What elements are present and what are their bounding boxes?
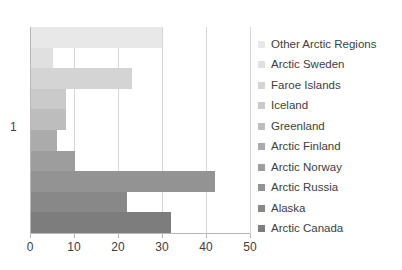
bar-row: [31, 109, 250, 130]
legend-swatch-icon: [258, 123, 265, 130]
legend-item[interactable]: Iceland: [258, 96, 398, 117]
x-axis-tick-label: 40: [199, 240, 212, 254]
legend-swatch-icon: [258, 61, 265, 68]
bar-faroe-islands: [31, 68, 132, 89]
bar-chart: 1 01020304050 Other Arctic RegionsArctic…: [0, 0, 402, 270]
legend-item[interactable]: Arctic Finland: [258, 137, 398, 158]
legend-item-label: Alaska: [271, 203, 306, 215]
bar-iceland: [31, 89, 66, 110]
x-axis-tick-label: 30: [155, 240, 168, 254]
legend-item-label: Arctic Canada: [271, 223, 343, 235]
bar-arctic-norway: [31, 151, 75, 172]
bar-arctic-canada: [31, 212, 171, 233]
legend-item-label: Faroe Islands: [271, 80, 341, 92]
plot-area: [30, 27, 250, 234]
y-axis-line: [30, 27, 31, 234]
legend-swatch-icon: [258, 41, 265, 48]
legend-swatch-icon: [258, 143, 265, 150]
legend-item[interactable]: Arctic Sweden: [258, 55, 398, 76]
legend-swatch-icon: [258, 205, 265, 212]
legend-item[interactable]: Alaska: [258, 198, 398, 219]
legend-item-label: Arctic Norway: [271, 162, 342, 174]
legend-item-label: Other Arctic Regions: [271, 39, 376, 51]
x-axis-tick-label: 10: [67, 240, 80, 254]
y-axis-category-label: 1: [10, 120, 17, 134]
bar-alaska: [31, 192, 127, 213]
bar-arctic-sweden: [31, 48, 53, 69]
legend-item[interactable]: Arctic Canada: [258, 219, 398, 240]
x-axis-tick: [206, 234, 207, 238]
bar-row: [31, 27, 250, 48]
bar-row: [31, 130, 250, 151]
bar-greenland: [31, 109, 66, 130]
legend-item-label: Arctic Sweden: [271, 59, 345, 71]
bar-other-arctic-regions: [31, 27, 162, 48]
x-axis-tick: [30, 234, 31, 238]
x-axis: 01020304050: [30, 234, 250, 264]
legend-item[interactable]: Faroe Islands: [258, 75, 398, 96]
bar-arctic-finland: [31, 130, 57, 151]
x-axis-tick-label: 0: [27, 240, 34, 254]
x-axis-tick: [74, 234, 75, 238]
x-axis-tick-label: 20: [111, 240, 124, 254]
legend-item-label: Iceland: [271, 100, 308, 112]
bar-row: [31, 151, 250, 172]
legend: Other Arctic RegionsArctic SwedenFaroe I…: [258, 34, 398, 239]
legend-swatch-icon: [258, 225, 265, 232]
legend-item[interactable]: Arctic Russia: [258, 178, 398, 199]
bar-group: [31, 27, 250, 233]
gridline: [250, 27, 251, 234]
x-axis-tick-label: 50: [243, 240, 256, 254]
bar-row: [31, 212, 250, 233]
bar-arctic-russia: [31, 171, 215, 192]
x-axis-tick: [250, 234, 251, 238]
x-axis-tick: [162, 234, 163, 238]
bar-row: [31, 89, 250, 110]
bar-row: [31, 192, 250, 213]
legend-item[interactable]: Greenland: [258, 116, 398, 137]
legend-swatch-icon: [258, 82, 265, 89]
bar-row: [31, 68, 250, 89]
legend-swatch-icon: [258, 164, 265, 171]
legend-swatch-icon: [258, 184, 265, 191]
bar-row: [31, 48, 250, 69]
legend-item[interactable]: Other Arctic Regions: [258, 34, 398, 55]
x-axis-tick: [118, 234, 119, 238]
legend-item[interactable]: Arctic Norway: [258, 157, 398, 178]
legend-item-label: Arctic Russia: [271, 182, 338, 194]
legend-item-label: Arctic Finland: [271, 141, 341, 153]
legend-item-label: Greenland: [271, 121, 325, 133]
bar-row: [31, 171, 250, 192]
legend-swatch-icon: [258, 102, 265, 109]
